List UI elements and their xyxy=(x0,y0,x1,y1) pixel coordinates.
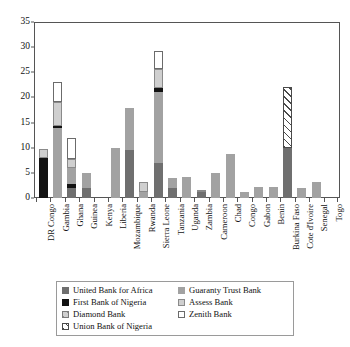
bar-slot xyxy=(324,22,338,198)
stacked-bar[interactable] xyxy=(283,87,292,198)
x-axis-label-slot: Tanzania xyxy=(165,203,179,273)
stacked-bar[interactable] xyxy=(53,82,62,198)
bar-slot xyxy=(237,22,251,198)
bar-segment xyxy=(39,149,48,158)
bar-slot xyxy=(295,22,309,198)
legend-item[interactable]: Union Bank of Nigeria xyxy=(62,321,172,332)
legend-item[interactable]: United Bank for Africa xyxy=(62,285,172,296)
bar-segment xyxy=(254,187,263,198)
bar-slot xyxy=(137,22,151,198)
bar-slot xyxy=(252,22,266,198)
bar-slot xyxy=(94,22,108,198)
bar-segment xyxy=(125,150,134,198)
bar-segment xyxy=(67,168,76,185)
bar-segment xyxy=(226,154,235,198)
bar-segment xyxy=(283,148,292,198)
bar-group xyxy=(34,22,340,198)
bar-slot xyxy=(79,22,93,198)
bar-slot xyxy=(309,22,323,198)
bar-slot xyxy=(108,22,122,198)
legend-item[interactable]: Diamond Bank xyxy=(62,309,172,320)
x-axis-label-slot: Liberia xyxy=(108,203,122,273)
stacked-bar[interactable] xyxy=(39,149,48,198)
bar-segment xyxy=(82,188,91,198)
x-axis-label-slot: Cameroon xyxy=(209,203,223,273)
stacked-bar[interactable] xyxy=(67,138,76,198)
stacked-bar[interactable] xyxy=(82,173,91,198)
bar-segment xyxy=(269,187,278,198)
stacked-bar[interactable] xyxy=(139,182,148,198)
bar-segment xyxy=(125,108,134,151)
legend-item-label: United Bank for Africa xyxy=(73,285,152,296)
legend-grid: United Bank for AfricaGuaranty Trust Ban… xyxy=(62,285,288,332)
stacked-bar[interactable] xyxy=(211,173,220,198)
bar-slot xyxy=(151,22,165,198)
stacked-bar[interactable] xyxy=(125,108,134,199)
legend-item[interactable]: First Bank of Nigeria xyxy=(62,297,172,308)
bar-segment xyxy=(53,102,62,125)
stacked-bar[interactable] xyxy=(197,190,206,198)
stacked-bar[interactable] xyxy=(269,187,278,198)
x-axis-label-slot: Kenya xyxy=(94,203,108,273)
stacked-bar[interactable] xyxy=(182,177,191,198)
chart-figure: 05101520253035 DR CongoGambiaGhanaGuinea… xyxy=(0,0,350,347)
bar-slot xyxy=(180,22,194,198)
bar-segment xyxy=(53,82,62,102)
bar-segment xyxy=(168,178,177,188)
legend-item[interactable]: Guaranty Trust Bank xyxy=(178,285,288,296)
bar-slot xyxy=(223,22,237,198)
bar-segment xyxy=(154,92,163,162)
x-axis-label-slot: Gambia xyxy=(50,203,64,273)
stacked-bar[interactable] xyxy=(154,51,163,198)
legend-item[interactable]: Zenith Bank xyxy=(178,309,288,320)
x-axis-label-slot: Gabon xyxy=(252,203,266,273)
bar-slot xyxy=(194,22,208,198)
x-axis-label-slot: Guinea xyxy=(79,203,93,273)
x-axis-label-slot: Mozambique xyxy=(122,203,136,273)
plot-area: 05101520253035 xyxy=(34,22,340,198)
bar-slot xyxy=(50,22,64,198)
stacked-bar[interactable] xyxy=(111,148,120,198)
legend-item-label: Guaranty Trust Bank xyxy=(189,285,261,296)
legend-swatch-fbn xyxy=(62,299,69,306)
stacked-bar[interactable] xyxy=(254,187,263,198)
bar-segment xyxy=(67,188,76,198)
legend-item[interactable]: Assess Bank xyxy=(178,297,288,308)
x-axis-label-slot: Cote d'Ivoire xyxy=(295,203,309,273)
legend-swatch-ubn xyxy=(62,323,69,330)
x-axis-label-slot: Chad xyxy=(223,203,237,273)
bar-segment xyxy=(53,128,62,198)
x-axis-labels: DR CongoGambiaGhanaGuineaKenyaLiberiaMoz… xyxy=(34,203,340,273)
legend-swatch-gtb xyxy=(178,287,185,294)
bar-segment xyxy=(154,69,163,88)
bar-segment xyxy=(67,159,76,168)
legend-item-label: Assess Bank xyxy=(189,297,233,308)
stacked-bar[interactable] xyxy=(297,188,306,198)
legend-swatch-uba xyxy=(62,287,69,294)
x-axis-label-slot: Ghana xyxy=(65,203,79,273)
legend-item-label: Diamond Bank xyxy=(73,309,125,320)
legend-swatch-ass xyxy=(178,299,185,306)
bar-slot xyxy=(122,22,136,198)
stacked-bar[interactable] xyxy=(226,154,235,198)
x-axis-label-slot: Togo xyxy=(324,203,338,273)
bar-segment xyxy=(297,188,306,198)
bar-slot xyxy=(266,22,280,198)
bar-slot xyxy=(36,22,50,198)
x-axis-label-slot: Uganda xyxy=(180,203,194,273)
stacked-bar[interactable] xyxy=(168,178,177,198)
x-axis-label-slot: Congo xyxy=(237,203,251,273)
bar-segment xyxy=(154,163,163,198)
bar-slot xyxy=(65,22,79,198)
chart-legend: United Bank for AfricaGuaranty Trust Ban… xyxy=(56,281,294,336)
x-axis-label-slot: Senegal xyxy=(309,203,323,273)
legend-item-label: Zenith Bank xyxy=(189,309,232,320)
legend-item-label: First Bank of Nigeria xyxy=(73,297,146,308)
bar-segment xyxy=(211,173,220,198)
legend-item-label: Union Bank of Nigeria xyxy=(73,321,152,332)
legend-swatch-zen xyxy=(178,311,185,318)
stacked-bar[interactable] xyxy=(312,182,321,198)
bar-segment xyxy=(111,148,120,198)
x-axis-label-slot: Zambia xyxy=(194,203,208,273)
bar-slot xyxy=(209,22,223,198)
